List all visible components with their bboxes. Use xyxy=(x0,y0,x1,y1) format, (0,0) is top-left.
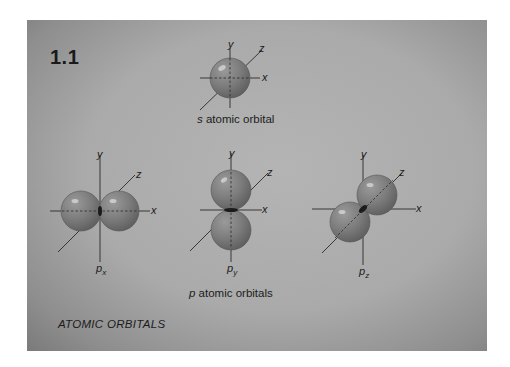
px-orbital: y z x px xyxy=(50,148,157,277)
orbital-diagram: y z x y z x px y z x py xyxy=(0,0,510,367)
pz-orbital: y z x pz xyxy=(312,148,422,280)
px-axis-y-label: y xyxy=(96,148,104,160)
pz-axis-y-label: y xyxy=(360,148,368,160)
p-orbitals-caption: p atomic orbitals xyxy=(189,287,273,299)
pz-axis-z-label: z xyxy=(398,166,405,178)
s-orbital: y z x xyxy=(200,38,268,110)
py-axis-z-label: z xyxy=(266,166,273,178)
s-axis-y-label: y xyxy=(227,38,235,50)
px-label: px xyxy=(95,262,107,277)
s-axis-z-label: z xyxy=(258,42,265,54)
highlight-icon xyxy=(367,183,374,187)
px-axis-z-label: z xyxy=(135,168,142,180)
s-orbital-caption: s atomic orbital xyxy=(197,113,274,125)
highlight-icon xyxy=(339,210,346,214)
py-axis-y-label: y xyxy=(228,147,236,159)
px-axis-x-label: x xyxy=(150,204,157,216)
py-axis-x-label: x xyxy=(261,203,268,215)
s-axis-x-label: x xyxy=(261,71,268,83)
py-orbital: y z x py xyxy=(190,147,273,277)
pz-axis-x-label: x xyxy=(415,202,422,214)
py-label: py xyxy=(226,262,238,277)
figure-title: ATOMIC ORBITALS xyxy=(58,318,165,330)
pz-label: pz xyxy=(358,265,369,280)
highlight-icon xyxy=(110,199,117,203)
highlight-icon xyxy=(72,199,79,203)
